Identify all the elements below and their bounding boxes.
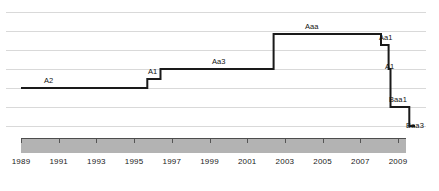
- rating-annotation-baa3: Baa3: [406, 121, 424, 130]
- x-axis-tick-label: 1995: [117, 157, 151, 166]
- rating-history-chart: A2 A1 Aa3 Aaa Aa1 A1 Baa1 Baa3 198919911…: [0, 0, 439, 191]
- x-axis-tick: [134, 139, 135, 143]
- x-axis-tick-label: 2007: [343, 157, 377, 166]
- x-axis-tick: [21, 139, 22, 143]
- rating-annotation-baa1: Baa1: [389, 95, 407, 104]
- x-axis-tick: [285, 139, 286, 143]
- x-axis-tick-label: 2009: [381, 157, 415, 166]
- rating-annotation-aa1: Aa1: [379, 33, 393, 42]
- x-axis-band: [21, 139, 406, 153]
- x-axis-tick: [210, 139, 211, 143]
- x-axis-tick-label: 1989: [4, 157, 38, 166]
- x-axis-tick: [59, 139, 60, 143]
- x-axis-line: [21, 138, 406, 139]
- rating-annotation-aa3: Aa3: [212, 57, 226, 66]
- x-axis-tick-label: 2001: [230, 157, 264, 166]
- x-axis-tick-label: 2005: [306, 157, 340, 166]
- rating-annotation-a2: A2: [44, 76, 53, 85]
- x-axis-tick: [172, 139, 173, 143]
- x-axis-tick: [323, 139, 324, 143]
- x-axis-tick-label: 1999: [193, 157, 227, 166]
- rating-annotation-a1-2: A1: [385, 62, 394, 71]
- x-axis-tick-label: 1991: [42, 157, 76, 166]
- x-axis-tick: [96, 139, 97, 143]
- x-axis-tick-label: 2003: [268, 157, 302, 166]
- step-line-series: [0, 0, 439, 145]
- plot-area: A2 A1 Aa3 Aaa Aa1 A1 Baa1 Baa3: [0, 0, 439, 145]
- rating-annotation-aaa: Aaa: [305, 22, 319, 31]
- x-axis-tick: [360, 139, 361, 143]
- x-axis-tick: [398, 139, 399, 143]
- x-axis-tick-label: 1997: [155, 157, 189, 166]
- x-axis-tick: [247, 139, 248, 143]
- x-axis-tick-label: 1993: [79, 157, 113, 166]
- rating-annotation-a1-1: A1: [148, 67, 157, 76]
